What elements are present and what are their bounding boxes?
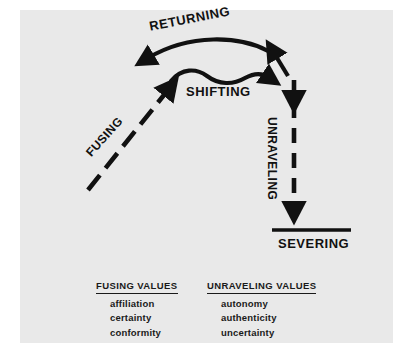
list-item: authenticity: [221, 312, 316, 323]
returning-arrow: [148, 39, 268, 58]
label-shifting: SHIFTING: [186, 84, 251, 99]
list-item: affiliation: [110, 298, 178, 309]
unraveling-values-title: UNRAVELING VALUES: [207, 280, 316, 294]
list-item: conformity: [110, 327, 178, 338]
list-item: certainty: [110, 312, 178, 323]
label-unraveling: UNRAVELING: [265, 117, 279, 200]
diagram-page: RETURNING SHIFTING FUSING UNRAVELING SEV…: [0, 0, 414, 362]
unraveling-values-block: UNRAVELING VALUES autonomy authenticity …: [207, 275, 316, 341]
label-severing: SEVERING: [278, 236, 349, 251]
list-item: autonomy: [221, 298, 316, 309]
shifting-arrow: [171, 71, 268, 84]
list-item: uncertainty: [221, 327, 316, 338]
unraveling-values-list: autonomy authenticity uncertainty: [207, 298, 316, 338]
returning-connector-arrow: [274, 53, 288, 76]
fusing-values-list: affiliation certainty conformity: [96, 298, 178, 338]
fusing-values-block: FUSING VALUES affiliation certainty conf…: [96, 275, 178, 341]
fusing-values-title: FUSING VALUES: [96, 280, 178, 294]
